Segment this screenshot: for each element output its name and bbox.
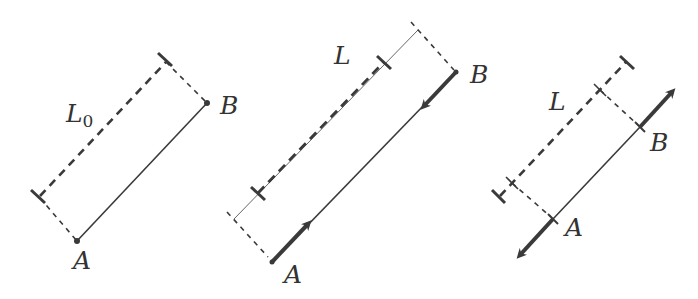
label-point-a: A [284,262,302,287]
length-label-text: L [66,99,83,128]
point-b-dot [454,70,459,75]
label-point-a: A [565,215,583,240]
label-point-b: B [470,62,488,87]
connector-a [227,212,268,257]
label-length-l: L [334,43,351,68]
force-b-inward [424,72,456,106]
length-subscript: 0 [83,111,94,131]
figure-rest [31,53,210,244]
force-a-inward [272,224,308,262]
connector-a [40,198,77,241]
connector-b [411,22,454,70]
label-point-b: B [650,130,668,155]
length-dimension-line [500,62,626,196]
force-a-outward [520,219,553,255]
tick-end-upper [620,56,634,69]
label-length-l0: L0 [66,101,93,130]
rod-ab [77,103,207,241]
length-dimension-line [40,62,166,196]
label-point-a: A [73,248,91,273]
rod-ab [553,127,640,219]
force-b-outward [640,92,672,127]
label-length-l: L [549,89,566,114]
length-dimension-line [258,62,384,193]
point-a-dot [270,260,275,265]
tick-end-upper [377,56,391,69]
connector-b [166,62,207,103]
label-point-b: B [220,93,238,118]
tick-end-upper [158,53,172,66]
